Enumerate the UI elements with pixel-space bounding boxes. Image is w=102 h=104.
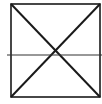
square-diagram [0, 0, 102, 104]
